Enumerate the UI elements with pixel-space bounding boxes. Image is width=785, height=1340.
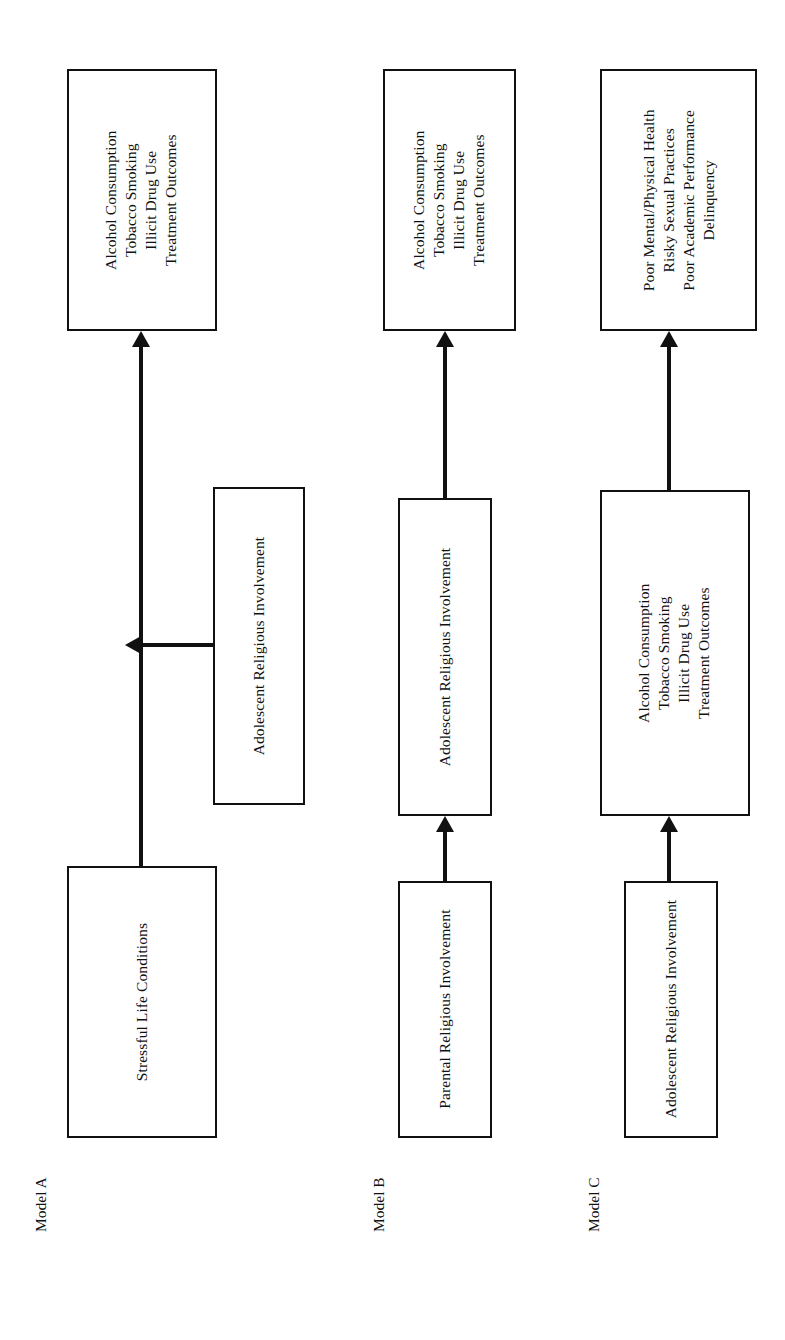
model-a-predictor-to-outcome-arrowhead-icon — [132, 331, 150, 347]
model-c-predictor-label: Adolescent Religious Involvement — [661, 900, 681, 1118]
model-a-moderator-label: Adolescent Religious Involvement — [249, 537, 269, 755]
model-b-caption: Model B — [370, 1177, 388, 1232]
model-a-caption: Model A — [32, 1177, 50, 1232]
model-a-predictor-to-outcome-line — [139, 347, 143, 866]
model-a-outcome-box: Alcohol Consumption Tobacco Smoking Illi… — [67, 69, 217, 331]
model-c-outcome-box: Poor Mental/Physical Health Risky Sexual… — [600, 69, 757, 331]
model-b-outcome-box: Alcohol Consumption Tobacco Smoking Illi… — [383, 69, 516, 331]
model-c-mediator-box: Alcohol Consumption Tobacco Smoking Illi… — [600, 490, 750, 816]
model-c-mediator-to-outcome-arrowhead-icon — [660, 331, 678, 347]
model-c-mediator-to-outcome-line — [667, 347, 671, 490]
model-a-predictor-label: Stressful Life Conditions — [132, 923, 152, 1081]
model-a-moderator-arrowhead-icon — [125, 636, 141, 654]
model-b-predictor-to-mediator-arrowhead-icon — [436, 816, 454, 832]
model-a-moderator-box: Adolescent Religious Involvement — [213, 487, 305, 805]
model-b-mediator-to-outcome-line — [443, 347, 447, 498]
model-a-moderator-line — [141, 643, 213, 647]
model-a-predictor-box: Stressful Life Conditions — [67, 866, 217, 1138]
model-b-mediator-box: Adolescent Religious Involvement — [398, 498, 492, 816]
model-a-outcome-label: Alcohol Consumption Tobacco Smoking Illi… — [102, 130, 183, 269]
model-b-outcome-label: Alcohol Consumption Tobacco Smoking Illi… — [409, 130, 490, 269]
model-c-predictor-to-mediator-arrowhead-icon — [660, 816, 678, 832]
model-c-outcome-label: Poor Mental/Physical Health Risky Sexual… — [638, 109, 719, 291]
model-c-mediator-label: Alcohol Consumption Tobacco Smoking Illi… — [635, 583, 716, 722]
model-c-predictor-box: Adolescent Religious Involvement — [624, 881, 718, 1138]
model-b-predictor-to-mediator-line — [443, 832, 447, 881]
model-b-mediator-to-outcome-arrowhead-icon — [436, 331, 454, 347]
model-c-predictor-to-mediator-line — [667, 832, 671, 881]
model-c-caption: Model C — [585, 1177, 603, 1232]
model-b-predictor-label: Parental Religious Involvement — [435, 910, 455, 1109]
model-b-mediator-label: Adolescent Religious Involvement — [435, 548, 455, 766]
conceptual-models-figure: Model A Stressful Life Conditions Adoles… — [0, 0, 785, 1340]
model-b-predictor-box: Parental Religious Involvement — [398, 881, 492, 1138]
